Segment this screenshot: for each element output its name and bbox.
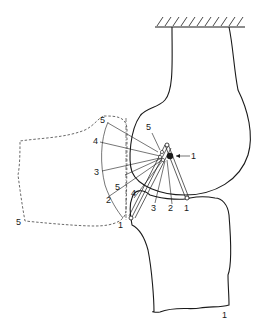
label-pivot-1: 1 <box>191 151 196 161</box>
label-bottom-2: 2 <box>168 203 173 213</box>
label-arc-1: 1 <box>118 220 123 230</box>
label-lower-segment-1: 1 <box>222 310 227 320</box>
pivot-main <box>167 153 173 159</box>
front-link <box>129 145 171 218</box>
label-inner-5: 5 <box>115 182 120 192</box>
ground-support <box>155 17 245 27</box>
pivot-bottom-left <box>129 216 133 220</box>
lower-segment <box>130 191 231 313</box>
pivot-top <box>165 143 169 147</box>
label-arc-4: 4 <box>93 136 98 146</box>
label-inner-4: 4 <box>131 188 136 198</box>
position-arc <box>102 122 123 218</box>
label-dashed-5: 5 <box>16 217 21 227</box>
label-bottom-1: 1 <box>184 203 189 213</box>
label-arc-3: 3 <box>94 167 99 177</box>
label-pivot-5: 5 <box>146 122 151 132</box>
pivot-bottom-right <box>185 196 189 200</box>
label-arc-5: 5 <box>100 115 105 125</box>
flexed-segment-outline <box>18 116 127 226</box>
label-arc-2: 2 <box>106 195 111 205</box>
knee-mechanism-diagram: 5 4 3 2 1 5 4 5 5 1 3 2 1 1 <box>0 0 261 330</box>
label-bottom-3: 3 <box>151 203 156 213</box>
